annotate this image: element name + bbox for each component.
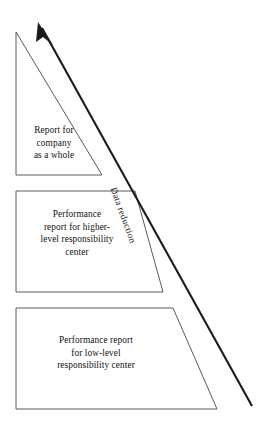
- caption-low-level: Performance report for low-level respons…: [22, 334, 170, 372]
- caption-company-level: Report for company as a whole: [16, 124, 92, 162]
- data-reduction-arrow-head: [36, 22, 53, 45]
- diagram-root: Report for company as a whole Performanc…: [0, 0, 268, 426]
